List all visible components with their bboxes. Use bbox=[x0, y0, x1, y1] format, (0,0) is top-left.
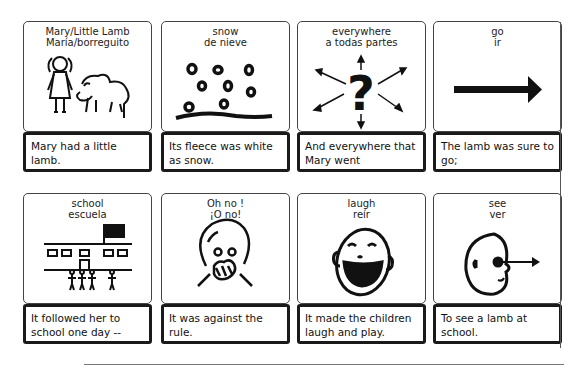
picture-panel: Oh no ! ¡O no! bbox=[161, 193, 290, 304]
caption-box: To see a lamb at school. bbox=[433, 304, 562, 344]
laughing-face-icon bbox=[298, 194, 425, 303]
caption-text: And everywhere that Mary went bbox=[300, 135, 423, 167]
girl-and-lamb-icon bbox=[24, 22, 151, 131]
question-arrows-icon: ? bbox=[298, 22, 425, 131]
svg-text:?: ? bbox=[347, 65, 375, 121]
picture-panel: go ir bbox=[433, 21, 562, 132]
picture-panel: everywhere a todas partes ? bbox=[297, 21, 426, 132]
caption-box: It made the children laugh and play. bbox=[297, 304, 426, 344]
picture-panel: Mary/Little Lamb María/borreguito bbox=[23, 21, 152, 132]
page-edge-line bbox=[560, 22, 561, 348]
caption-box: And everywhere that Mary went bbox=[297, 132, 426, 172]
caption-text: It followed her to school one day -- bbox=[26, 307, 149, 339]
school-building-icon bbox=[24, 194, 151, 303]
caption-box: It followed her to school one day -- bbox=[23, 304, 152, 344]
bottom-rule bbox=[84, 364, 564, 365]
caption-text: It was against the rule. bbox=[164, 307, 287, 339]
caption-text: The lamb was sure to go; bbox=[436, 135, 559, 167]
surprised-face-icon bbox=[162, 194, 289, 303]
snowflakes-icon bbox=[162, 22, 289, 131]
caption-text: To see a lamb at school. bbox=[436, 307, 559, 339]
caption-box: It was against the rule. bbox=[161, 304, 290, 344]
caption-text: Its fleece was white as snow. bbox=[164, 135, 287, 167]
picture-panel: school escuela bbox=[23, 193, 152, 304]
picture-panel: snow de nieve bbox=[161, 21, 290, 132]
eye-looking-icon bbox=[434, 194, 561, 303]
caption-box: The lamb was sure to go; bbox=[433, 132, 562, 172]
caption-box: Its fleece was white as snow. bbox=[161, 132, 290, 172]
caption-text: It made the children laugh and play. bbox=[300, 307, 423, 339]
right-arrow-icon bbox=[434, 22, 561, 131]
picture-panel: laugh reír bbox=[297, 193, 426, 304]
picture-panel: see ver bbox=[433, 193, 562, 304]
caption-box: Mary had a little lamb. bbox=[23, 132, 152, 172]
caption-text: Mary had a little lamb. bbox=[26, 135, 149, 167]
